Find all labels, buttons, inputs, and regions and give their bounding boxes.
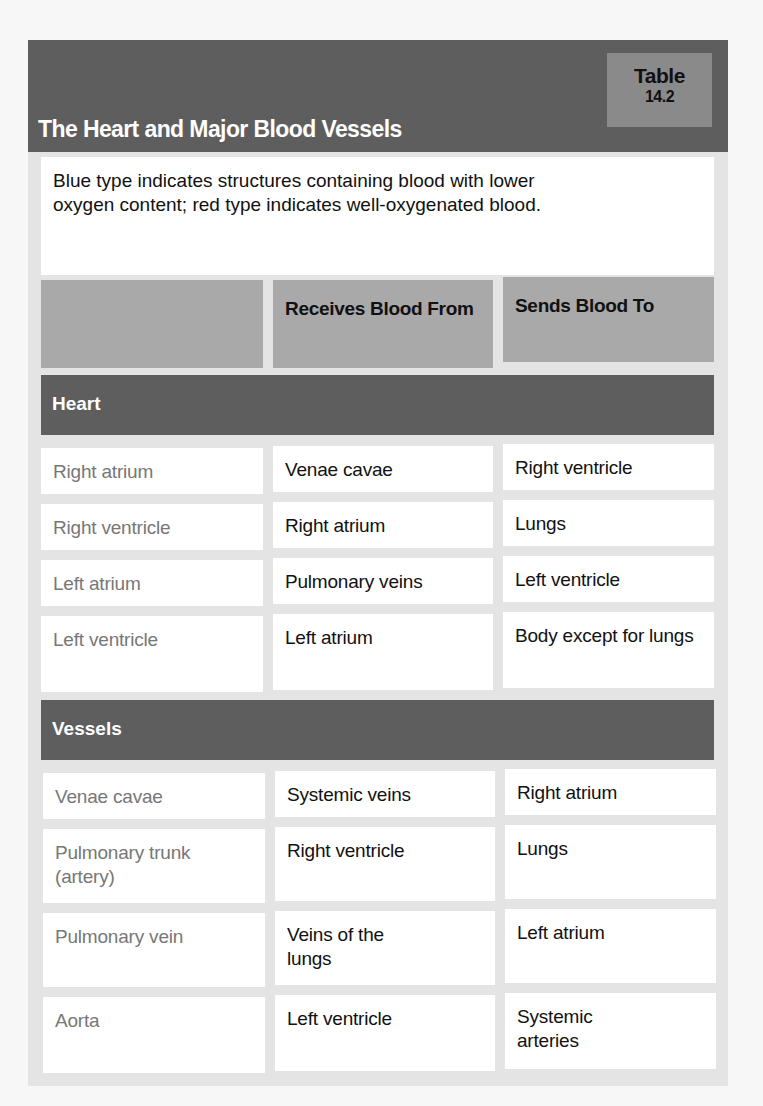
legend-text: Blue type indicates structures containin… (41, 157, 585, 229)
table-row-cell-receives: Veins of the lungs (275, 911, 495, 985)
table-row-cell-structure: Aorta (43, 997, 265, 1073)
table-row-cell-receives: Venae cavae (273, 446, 493, 492)
cell-text: Venae cavae (285, 458, 393, 482)
cell-text: Systemic arteries (517, 1005, 627, 1053)
column-header-sends: Sends Blood To (503, 277, 714, 362)
cell-text: Body except for lungs (515, 624, 695, 648)
section-label: Vessels (52, 718, 122, 740)
column-header-structure (41, 280, 263, 368)
section-heart: Heart (41, 375, 714, 435)
section-vessels: Vessels (41, 700, 714, 760)
table-row-cell-receives: Left ventricle (275, 995, 495, 1071)
cell-text: Pulmonary veins (285, 570, 422, 594)
table-number-badge: Table 14.2 (607, 53, 712, 127)
table-row-cell-receives: Pulmonary veins (273, 558, 493, 604)
table-row-cell-sends: Left atrium (505, 909, 716, 983)
cell-text: Right ventricle (287, 839, 404, 863)
table-row-cell-receives: Right ventricle (275, 827, 495, 901)
cell-text: Left atrium (53, 572, 141, 596)
table-row-cell-sends: Right ventricle (503, 444, 714, 490)
cell-text: Left ventricle (515, 568, 620, 592)
column-header-receives: Receives Blood From (273, 280, 493, 368)
cell-text: Right atrium (285, 514, 385, 538)
table-row-cell-sends: Right atrium (505, 769, 716, 815)
table-row-cell-sends: Lungs (505, 825, 716, 899)
title-bar: Table 14.2 The Heart and Major Blood Ves… (28, 40, 728, 152)
cell-text: Left atrium (517, 921, 605, 945)
cell-text: Right atrium (517, 781, 617, 805)
table-row-cell-structure: Left atrium (41, 560, 263, 606)
table-row-cell-sends: Lungs (503, 500, 714, 546)
cell-text: Lungs (517, 837, 568, 861)
cell-text: Systemic veins (287, 783, 411, 807)
cell-text: Pulmonary trunk (artery) (55, 841, 245, 889)
cell-text: Left ventricle (53, 628, 158, 652)
cell-text: Lungs (515, 512, 566, 536)
table-row-cell-receives: Systemic veins (275, 771, 495, 817)
section-label: Heart (52, 393, 101, 415)
cell-text: Left ventricle (287, 1007, 392, 1031)
table-row-cell-structure: Right ventricle (41, 504, 263, 550)
badge-label: Table (607, 65, 712, 86)
table-row-cell-structure: Pulmonary trunk (artery) (43, 829, 265, 903)
badge-number: 14.2 (607, 86, 712, 107)
table-row-cell-sends: Left ventricle (503, 556, 714, 602)
table-row-cell-structure: Pulmonary vein (43, 913, 265, 987)
cell-text: Pulmonary vein (55, 925, 183, 949)
cell-text: Veins of the lungs (287, 923, 427, 971)
cell-text: Right atrium (53, 460, 153, 484)
cell-text: Right ventricle (515, 456, 632, 480)
table-row-cell-receives: Right atrium (273, 502, 493, 548)
table-row-cell-sends: Body except for lungs (503, 612, 714, 688)
table-card: Table 14.2 The Heart and Major Blood Ves… (28, 40, 728, 1086)
legend-note: Blue type indicates structures containin… (41, 157, 714, 275)
column-header-label: Sends Blood To (515, 295, 654, 317)
cell-text: Venae cavae (55, 785, 163, 809)
table-row-cell-structure: Venae cavae (43, 773, 265, 819)
table-title: The Heart and Major Blood Vessels (38, 116, 402, 143)
cell-text: Aorta (55, 1009, 99, 1033)
cell-text: Left atrium (285, 626, 373, 650)
column-header-label: Receives Blood From (285, 298, 474, 320)
table-row-cell-structure: Right atrium (41, 448, 263, 494)
table-row-cell-sends: Systemic arteries (505, 993, 716, 1069)
table-row-cell-receives: Left atrium (273, 614, 493, 690)
cell-text: Right ventricle (53, 516, 170, 540)
table-row-cell-structure: Left ventricle (41, 616, 263, 692)
